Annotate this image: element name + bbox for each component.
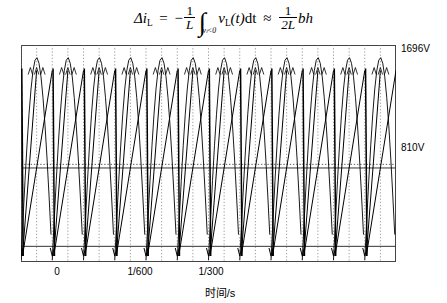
formula-frac2-denominator: 2L (279, 17, 297, 31)
formula-equals: = (159, 10, 167, 26)
waveform-plot-area (21, 45, 396, 262)
formula-differential: dt (245, 10, 257, 26)
formula-fraction-one-over-l: 1L (184, 4, 195, 32)
x-tick-label-2: 1/300 (186, 266, 236, 277)
rectified-sine-series (21, 58, 395, 260)
formula-delta-il: ΔiL = −1L∫vₗ<0vL(t)dt ≈ 12Lbh (0, 4, 447, 35)
formula-rhs-bh: bh (298, 10, 313, 26)
x-tick-label-1: 1/600 (115, 266, 165, 277)
formula-integrand-argument: (t) (231, 10, 245, 26)
formula-frac1-denominator: L (184, 17, 195, 31)
formula-frac1-numerator: 1 (184, 4, 195, 17)
formula-minus: − (175, 10, 183, 26)
x-axis-title: 时间/s (160, 284, 280, 300)
formula-integrand-v: v (218, 10, 225, 26)
annotation-mid-voltage: 810V (401, 142, 424, 153)
formula-delta: Δ (134, 10, 143, 26)
waveform-chart (21, 45, 396, 262)
x-tick-label-0: 0 (40, 266, 74, 277)
formula-frac2-numerator: 1 (279, 4, 297, 17)
formula-approx: ≈ (263, 10, 271, 26)
formula-i-subscript: L (147, 18, 153, 28)
grid-lines (21, 45, 380, 262)
annotation-peak-voltage: 1696V (401, 43, 430, 54)
formula-integral-limit: vₗ<0 (203, 26, 217, 35)
formula-fraction-one-over-2l: 12L (279, 4, 297, 32)
